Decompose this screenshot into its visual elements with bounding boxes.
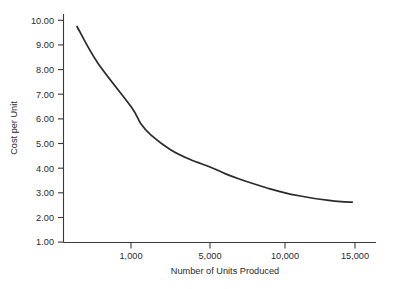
x-tick-label-5000: 5,000: [199, 251, 222, 261]
y-tick-label-4: 4.00: [36, 164, 54, 174]
y-axis-title: Cost per Unit: [9, 101, 19, 155]
y-tick-label-9: 9.00: [36, 40, 54, 50]
y-tick-label-1: 1.00: [36, 237, 54, 247]
y-tick-label-6: 6.00: [36, 114, 54, 124]
y-tick-label-5: 5.00: [36, 139, 54, 149]
chart-background: [0, 0, 402, 289]
x-tick-label-10000: 10,000: [271, 251, 299, 261]
y-tick-label-10: 10.00: [31, 16, 54, 26]
x-axis-title: Number of Units Produced: [171, 266, 279, 276]
cost-per-unit-line-chart: 10.00 9.00 8.00 7.00 6.00 5.00 4.00 3.00…: [0, 0, 402, 289]
chart-container: 10.00 9.00 8.00 7.00 6.00 5.00 4.00 3.00…: [0, 0, 402, 289]
y-tick-label-7: 7.00: [36, 90, 54, 100]
y-tick-label-2: 2.00: [36, 213, 54, 223]
x-tick-label-1000: 1,000: [120, 251, 143, 261]
y-tick-label-3: 3.00: [36, 188, 54, 198]
x-tick-label-15000: 15,000: [341, 251, 369, 261]
y-tick-label-8: 8.00: [36, 65, 54, 75]
